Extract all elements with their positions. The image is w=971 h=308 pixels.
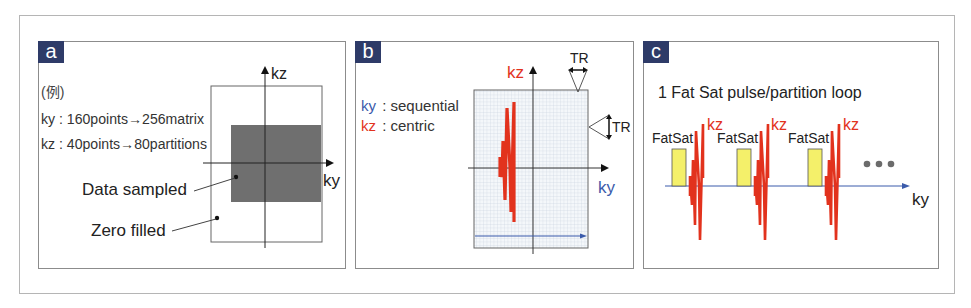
ellipsis-dot-icon (888, 161, 895, 168)
fatsat-pulse-2 (737, 149, 751, 186)
ky-arrow-icon (902, 183, 910, 189)
fatsat-pulse-3 (808, 149, 822, 186)
kz-label-3: kz (843, 116, 859, 133)
fatsat-label-1: FatSat (652, 130, 693, 146)
kz-label-2: kz (771, 116, 787, 133)
fatsat-label-3: FatSat (788, 130, 829, 146)
fatsat-pulse-1 (672, 149, 686, 186)
ellipsis-dot-icon (864, 161, 871, 168)
fatsat-label-2: FatSat (717, 130, 758, 146)
axis-ky-label: ky (912, 190, 930, 209)
panel-c-title: 1 Fat Sat pulse/partition loop (658, 84, 862, 101)
ellipsis-dot-icon (876, 161, 883, 168)
panel-c-diagram: 1 Fat Sat pulse/partition loop ky FatSat… (0, 0, 971, 308)
